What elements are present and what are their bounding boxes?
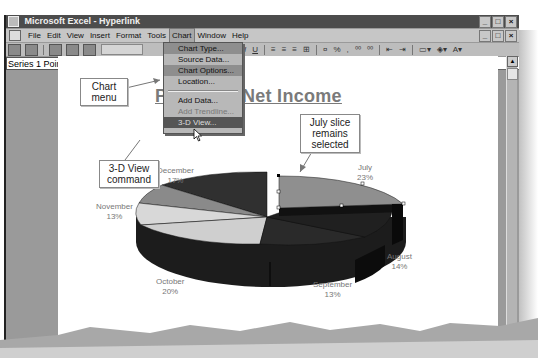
label-pct: 23%	[357, 173, 373, 183]
menu-item-location[interactable]: Location...	[164, 76, 242, 87]
label-name: July	[357, 163, 373, 173]
label-name: October	[156, 277, 184, 287]
menu-item-chart-type[interactable]: Chart Type...	[164, 43, 242, 54]
arrowhead	[300, 164, 306, 172]
pie-label-november: November 13%	[96, 202, 133, 222]
label-pct: 20%	[156, 287, 184, 297]
selection-handle[interactable]	[277, 174, 280, 177]
selection-handle[interactable]	[277, 190, 280, 193]
menu-item-add-trendline: Add Trendline...	[164, 106, 242, 117]
callout-arrow	[125, 140, 140, 160]
label-name: September	[313, 280, 352, 290]
menu-item-3d-view[interactable]: 3-D View...	[164, 117, 242, 128]
selection-handle[interactable]	[277, 206, 280, 209]
pie-label-october: October 20%	[156, 277, 184, 297]
pie-label-september: September 13%	[313, 280, 352, 300]
menu-separator	[168, 90, 238, 92]
selection-handle[interactable]	[402, 202, 405, 205]
callout-3d-view: 3-D View command	[99, 160, 159, 188]
pie-label-august: August 14%	[387, 252, 412, 272]
menu-item-add-data[interactable]: Add Data...	[164, 95, 242, 106]
arrowhead	[153, 78, 160, 84]
menu-item-chart-options[interactable]: Chart Options...	[164, 65, 242, 76]
july-slice-side	[392, 204, 403, 245]
pie-slice-july[interactable]	[279, 176, 403, 208]
label-pct: 14%	[387, 262, 412, 272]
label-pct: 17%	[157, 176, 194, 186]
pie-chart[interactable]	[0, 0, 538, 358]
label-name: August	[387, 252, 412, 262]
mouse-pointer-icon	[193, 128, 203, 142]
label-pct: 13%	[96, 212, 133, 222]
label-pct: 13%	[313, 290, 352, 300]
menu-item-source-data[interactable]: Source Data...	[164, 54, 242, 65]
label-name: November	[96, 202, 133, 212]
label-name: December	[157, 166, 194, 176]
callout-july-selected: July slice remains selected	[300, 114, 360, 153]
pie-label-july: July 23%	[357, 163, 373, 183]
chart-menu-dropdown: Chart Type... Source Data... Chart Optio…	[163, 42, 243, 134]
callout-chart-menu: Chart menu	[80, 78, 128, 106]
pie-label-december: December 17%	[157, 166, 194, 186]
selection-handle[interactable]	[340, 204, 343, 207]
